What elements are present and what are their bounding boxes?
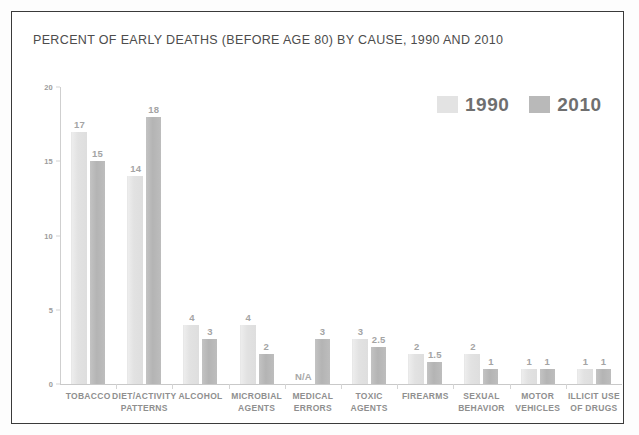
bar-2010[interactable]: 3	[315, 339, 330, 384]
bar-1990[interactable]: 3	[352, 339, 368, 384]
bar-group: 21.5FIREARMS	[397, 87, 453, 384]
y-tick-label: 20	[44, 83, 53, 92]
x-tick-mark	[453, 384, 454, 389]
bars: 11	[510, 87, 566, 384]
bar-value-label: 1	[488, 356, 493, 367]
y-tick-label: 10	[44, 231, 53, 240]
bars: 11	[566, 87, 622, 384]
bars: 1418	[116, 87, 172, 384]
x-tick-mark	[285, 384, 286, 389]
bars: 42	[229, 87, 285, 384]
bar-1990[interactable]: 4	[240, 325, 256, 384]
chart-title: PERCENT OF EARLY DEATHS (BEFORE AGE 80) …	[33, 33, 503, 47]
chart-figure: PERCENT OF EARLY DEATHS (BEFORE AGE 80) …	[0, 0, 639, 435]
x-tick-mark	[397, 384, 398, 389]
bar-value-label: 3	[358, 326, 363, 337]
bars: 43	[172, 87, 228, 384]
bar-1990[interactable]: 2	[408, 354, 424, 384]
bar-2010[interactable]: 1	[596, 369, 611, 384]
bar-group: 21SEXUAL BEHAVIOR	[453, 87, 509, 384]
bar-value-label: 17	[74, 119, 85, 130]
bar-group: 11MOTOR VEHICLES	[510, 87, 566, 384]
bar-1990[interactable]: 1	[577, 369, 593, 384]
plot-area: 05101520 1715TOBACCO1418DIET/ACTIVITY PA…	[60, 87, 622, 384]
bar-value-label: 18	[148, 104, 159, 115]
bar-value-label: 1	[526, 356, 531, 367]
x-tick-mark	[341, 384, 342, 389]
bar-group: 32.5TOXIC AGENTS	[341, 87, 397, 384]
bar-2010[interactable]: 3	[202, 339, 217, 384]
bar-value-label: 4	[245, 312, 250, 323]
bar-value-label: 14	[130, 163, 141, 174]
x-tick-mark	[566, 384, 567, 389]
x-tick-mark	[229, 384, 230, 389]
bar-2010[interactable]: 1	[540, 369, 555, 384]
bar-2010[interactable]: 2	[259, 354, 274, 384]
bar-value-label: 2	[414, 341, 419, 352]
bar-group: 1418DIET/ACTIVITY PATTERNS	[116, 87, 172, 384]
figure-border: PERCENT OF EARLY DEATHS (BEFORE AGE 80) …	[11, 11, 624, 424]
bars: 32.5	[341, 87, 397, 384]
bar-1990[interactable]: 2	[464, 354, 480, 384]
y-tick-label: 5	[49, 305, 53, 314]
bar-value-label: 3	[207, 326, 212, 337]
bar-value-label: 2.5	[372, 334, 386, 345]
bar-1990[interactable]: 17	[71, 132, 87, 384]
bar-group: 1715TOBACCO	[60, 87, 116, 384]
bar-group: 11ILLICIT USE OF DRUGS	[566, 87, 622, 384]
bar-value-label: 15	[92, 148, 103, 159]
bar-value-label: 3	[320, 326, 325, 337]
bar-1990[interactable]: 1	[521, 369, 537, 384]
bar-value-label: 1	[601, 356, 606, 367]
bar-value-label: 1	[544, 356, 549, 367]
bar-1990[interactable]: 14	[127, 176, 143, 384]
x-axis-category-label: ILLICIT USE OF DRUGS	[557, 390, 631, 414]
bar-1990[interactable]: 4	[183, 325, 199, 384]
x-tick-mark	[510, 384, 511, 389]
bar-value-label: 2	[470, 341, 475, 352]
bar-group: 43ALCOHOL	[172, 87, 228, 384]
bar-2010[interactable]: 2.5	[371, 347, 386, 384]
bar-value-label: 1.5	[428, 349, 442, 360]
bars: 1715	[60, 87, 116, 384]
bars: N/A3	[285, 87, 341, 384]
x-tick-mark	[116, 384, 117, 389]
bar-2010[interactable]: 1.5	[427, 362, 442, 384]
bar-2010[interactable]: 15	[90, 161, 105, 384]
bar-value-label: 1	[583, 356, 588, 367]
x-tick-mark	[172, 384, 173, 389]
bar-value-label: 4	[189, 312, 194, 323]
y-tick-label: 0	[49, 380, 53, 389]
bar-na-label: N/A	[295, 371, 312, 382]
bar-value-label: 2	[263, 341, 268, 352]
y-tick-label: 15	[44, 157, 53, 166]
bar-2010[interactable]: 1	[483, 369, 498, 384]
bars: 21.5	[397, 87, 453, 384]
bars: 21	[453, 87, 509, 384]
bar-group: 42MICROBIAL AGENTS	[229, 87, 285, 384]
bar-group: N/A3MEDICAL ERRORS	[285, 87, 341, 384]
bar-2010[interactable]: 18	[146, 117, 161, 384]
